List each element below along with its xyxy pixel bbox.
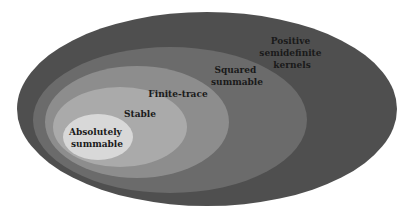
label-finite-trace: Finite-trace xyxy=(148,89,208,99)
nested-sets-diagram: Positive semidefinite kernels Squared su… xyxy=(0,0,413,218)
ellipse-absolutely-summable xyxy=(63,114,133,160)
label-stable: Stable xyxy=(124,109,156,119)
set-absolutely-summable xyxy=(63,114,133,160)
